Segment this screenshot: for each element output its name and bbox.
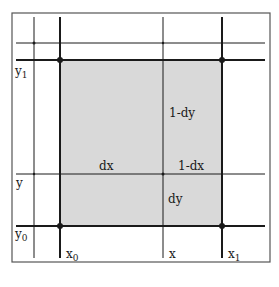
point-x0-y1 bbox=[57, 57, 63, 63]
label-y1: y1 bbox=[14, 64, 28, 80]
point-x1-y0 bbox=[219, 223, 225, 229]
label-y0: y0 bbox=[14, 227, 28, 243]
point-x-top bbox=[162, 42, 164, 44]
label-one-minus-dx: 1-dx bbox=[178, 159, 204, 173]
point-grid-corner bbox=[33, 42, 36, 45]
label-one-minus-dy: 1-dy bbox=[169, 106, 195, 120]
point-x-y bbox=[162, 173, 165, 176]
interpolation-diagram: y1 y y0 x0 x x1 1-dy dx 1-dx dy bbox=[0, 0, 279, 287]
point-x0-y0 bbox=[57, 223, 63, 229]
label-x1: x1 bbox=[228, 247, 241, 263]
point-left-y bbox=[33, 173, 35, 175]
label-dy: dy bbox=[168, 192, 183, 206]
label-y: y bbox=[15, 176, 23, 190]
shaded-cell bbox=[60, 60, 222, 226]
label-x0: x0 bbox=[66, 247, 79, 263]
point-x1-y1 bbox=[219, 57, 225, 63]
label-dx: dx bbox=[99, 159, 114, 173]
label-x: x bbox=[169, 247, 176, 261]
